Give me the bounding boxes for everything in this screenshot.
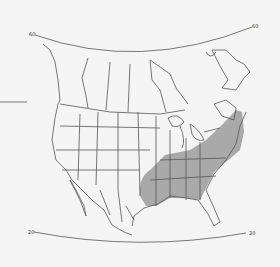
latitude-label-60-right: 60 [252, 23, 258, 29]
latitude-label-60-left: 60 [29, 31, 35, 37]
latitude-label-20-left: 20 [28, 229, 34, 235]
range-shaded-area [140, 110, 244, 206]
north-america-map [0, 0, 280, 267]
range-map: 60 60 20 20 [0, 0, 280, 267]
latitude-60-arc [35, 27, 252, 52]
latitude-20-arc [34, 232, 246, 242]
latitude-label-20-right: 20 [249, 230, 255, 236]
